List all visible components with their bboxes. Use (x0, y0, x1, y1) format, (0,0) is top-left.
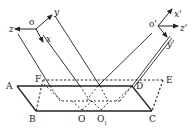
label-O: O (78, 114, 85, 124)
label-z-prime: z' (179, 23, 187, 33)
label-x: x (46, 34, 51, 44)
label-F: F (35, 74, 41, 84)
edge-EC (152, 80, 163, 111)
label-o: o (29, 17, 34, 27)
plane-ABCD (17, 86, 152, 111)
rays-right (98, 33, 172, 87)
y-prime-axis (158, 26, 167, 37)
edge-FB (36, 80, 43, 111)
x-prime-axis (158, 9, 172, 26)
label-E: E (166, 75, 173, 85)
label-A: A (5, 81, 13, 91)
rays-right-hidden (86, 86, 132, 101)
label-z: z (8, 24, 14, 34)
rays-left-hidden (50, 86, 108, 101)
label-D: D (136, 81, 143, 91)
label-y: y (53, 7, 60, 17)
diagram: o z y x o' x' z' y' A F B O O 1 C D E (0, 0, 195, 133)
edge-AB (17, 86, 36, 111)
y-axis-left (36, 15, 52, 29)
x-axis-left (36, 29, 43, 42)
label-B: B (29, 114, 36, 124)
label-O1-subscript: 1 (104, 120, 107, 126)
label-C: C (149, 114, 156, 124)
label-y-prime: y' (166, 39, 175, 49)
label-x-prime: x' (174, 9, 182, 19)
label-o-prime: o' (149, 19, 157, 29)
